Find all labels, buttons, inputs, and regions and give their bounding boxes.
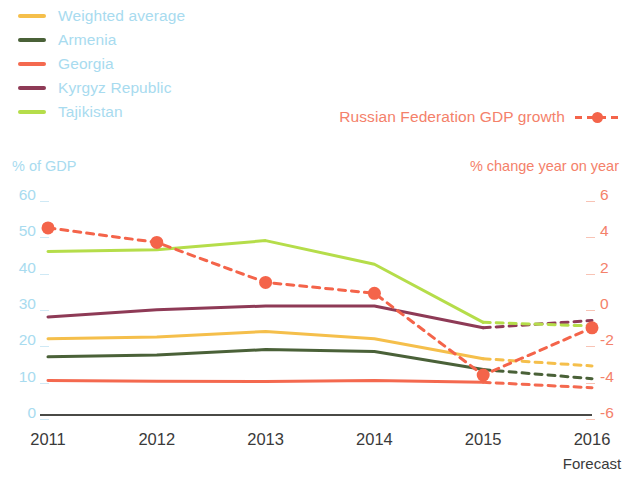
gdp-remittances-chart: Weighted averageArmeniaGeorgiaKyrgyz Rep… <box>0 0 635 477</box>
y-axis-right-tick: 4 <box>600 222 634 240</box>
x-axis-tick: 2011 <box>13 430 83 449</box>
y-axis-right-tick: 2 <box>600 259 634 277</box>
y-axis-right-tick: -4 <box>600 368 634 386</box>
data-point-marker <box>42 221 55 234</box>
x-axis-tick: 2016 <box>557 430 627 449</box>
series-svg <box>0 0 635 477</box>
plot-area <box>0 0 635 477</box>
y-axis-left-tick: 20 <box>2 331 36 349</box>
y-axis-right-tickmark <box>586 310 595 311</box>
y-axis-left-tickmark <box>40 201 49 202</box>
y-axis-right-tick: -6 <box>600 404 634 422</box>
y-axis-left-tick: 0 <box>2 404 36 422</box>
y-axis-left-tickmark <box>40 274 49 275</box>
y-axis-right-tickmark <box>586 383 595 384</box>
data-point-marker <box>150 236 163 249</box>
series-line-forecast-georgia <box>483 382 592 387</box>
y-axis-right-tickmark <box>586 201 595 202</box>
x-axis-line <box>40 414 592 416</box>
y-axis-right-tick: 6 <box>600 186 634 204</box>
y-axis-left-tickmark <box>40 237 49 238</box>
data-point-marker <box>477 369 490 382</box>
x-axis-tick: 2015 <box>448 430 518 449</box>
series-line-armenia <box>48 350 483 370</box>
data-point-marker <box>259 276 272 289</box>
y-axis-left-tick: 10 <box>2 368 36 386</box>
y-axis-left-tick: 50 <box>2 222 36 240</box>
y-axis-left-tickmark <box>40 419 49 420</box>
series-line-georgia <box>48 380 483 382</box>
data-point-marker <box>368 287 381 300</box>
series-line-forecast-armenia <box>483 370 592 379</box>
y-axis-right-tickmark <box>586 419 595 420</box>
y-axis-left-tick: 30 <box>2 295 36 313</box>
forecast-note: Forecast <box>547 455 635 472</box>
y-axis-left-tick: 60 <box>2 186 36 204</box>
y-axis-left-tickmark <box>40 346 49 347</box>
series-line-forecast-weighted-average <box>483 359 592 366</box>
x-axis-tick: 2013 <box>231 430 301 449</box>
y-axis-left-tickmark <box>40 383 49 384</box>
y-axis-right-tickmark <box>586 274 595 275</box>
x-axis-tick: 2012 <box>122 430 192 449</box>
y-axis-right-tick: -2 <box>600 331 634 349</box>
x-axis-tick: 2014 <box>339 430 409 449</box>
series-line-kyrgyz-republic <box>48 306 483 328</box>
y-axis-left-tickmark <box>40 310 49 311</box>
y-axis-left-tick: 40 <box>2 259 36 277</box>
y-axis-right-tickmark <box>586 346 595 347</box>
y-axis-right-tickmark <box>586 237 595 238</box>
y-axis-right-tick: 0 <box>600 295 634 313</box>
data-point-marker <box>586 321 599 334</box>
